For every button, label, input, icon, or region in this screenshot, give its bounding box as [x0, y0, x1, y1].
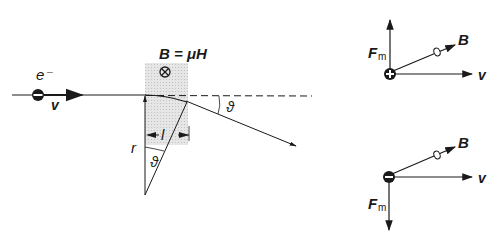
- field-label-positive: B: [458, 31, 469, 48]
- center-angle-label: ϑ: [150, 153, 159, 170]
- force-subscript-negative: m: [378, 202, 386, 213]
- exit-angle-label: ϑ: [226, 98, 235, 115]
- electron-label: e⁻: [36, 66, 53, 83]
- force-label-negative: F: [368, 195, 378, 212]
- field-region: [145, 63, 188, 145]
- field-label: B = μH: [159, 45, 208, 62]
- left-panel: e⁻ v B = μH ϑ ϑ r: [12, 45, 312, 195]
- field-arrow-negative: [392, 147, 455, 174]
- positive-charge-icon: [384, 68, 396, 80]
- center-angle-arc: [145, 147, 164, 151]
- velocity-label: v: [51, 97, 60, 113]
- velocity-label-positive: v: [478, 67, 487, 83]
- exit-angle-arc: [218, 96, 220, 114]
- field-arrow-positive: [393, 45, 455, 71]
- electron-icon: [32, 89, 44, 101]
- undeflected-path: [146, 96, 312, 97]
- force-subscript-positive: m: [378, 51, 386, 62]
- deflected-beam: [186, 101, 296, 146]
- force-label-positive: F: [368, 44, 378, 61]
- negative-charge-vectors: F m B v: [368, 134, 487, 230]
- positive-charge-vectors: F m B v: [368, 20, 487, 83]
- diagram-canvas: e⁻ v B = μH ϑ ϑ r: [0, 0, 501, 236]
- velocity-label-negative: v: [478, 170, 487, 186]
- field-label-negative: B: [458, 134, 469, 151]
- radius-label: r: [131, 139, 137, 156]
- negative-charge-icon: [383, 171, 395, 183]
